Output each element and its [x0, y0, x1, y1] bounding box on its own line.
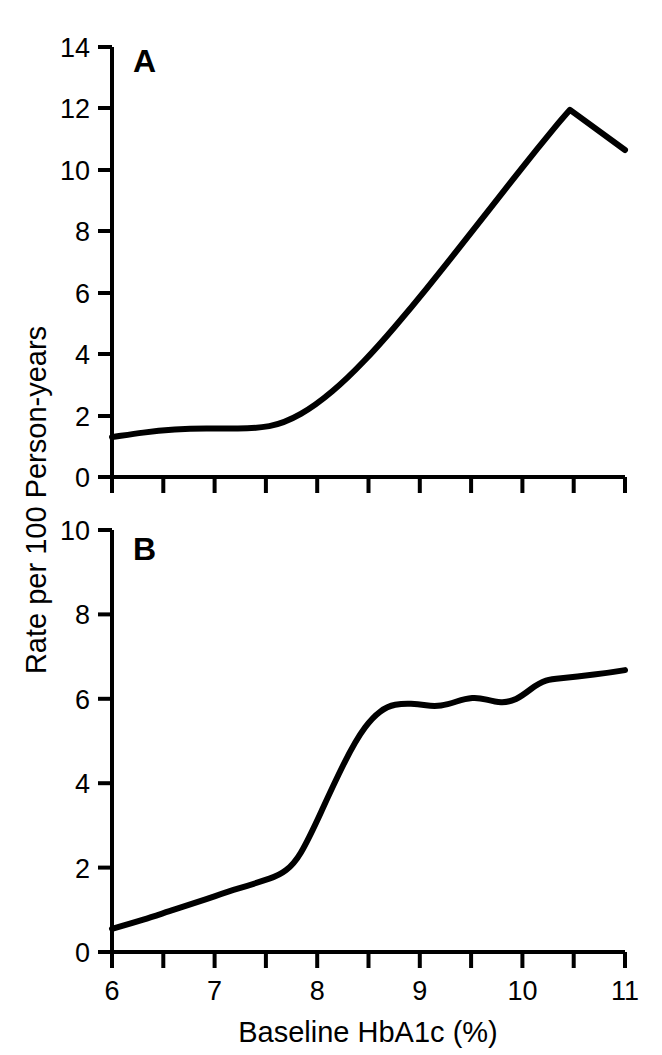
panel-a-ytick-2: 2: [75, 402, 90, 432]
panel-b-ytick-6: 6: [75, 685, 90, 715]
panel-a-ytick-14: 14: [60, 33, 90, 63]
y-axis-title-text: Rate per 100 Person-years: [20, 326, 52, 674]
figure-container: Rate per 100 Person-years A: [0, 0, 662, 1055]
panel-a-ytick-10: 10: [60, 156, 90, 186]
panel-a-ytick-6: 6: [75, 279, 90, 309]
figure-background: [0, 0, 662, 1055]
panel-b-ytick-2: 2: [75, 854, 90, 884]
xtick-7: 7: [207, 976, 222, 1006]
panel-a-ytick-4: 4: [75, 340, 90, 370]
panel-b-ytick-10: 10: [60, 516, 90, 546]
panel-b-letter: B: [133, 531, 156, 567]
xtick-8: 8: [310, 976, 325, 1006]
xtick-11: 11: [611, 976, 639, 1006]
x-axis-title: Baseline HbA1c (%): [238, 1016, 498, 1048]
xtick-10: 10: [507, 976, 537, 1006]
panel-a-ytick-12: 12: [60, 94, 90, 124]
y-axis-title: Rate per 100 Person-years: [20, 326, 52, 674]
panel-a-ytick-8: 8: [75, 217, 90, 247]
xtick-9: 9: [412, 976, 427, 1006]
panel-b-ytick-4: 4: [75, 769, 90, 799]
panel-b-ytick-0: 0: [75, 938, 90, 968]
panel-a-ytick-0: 0: [75, 463, 90, 493]
xtick-6: 6: [104, 976, 119, 1006]
panel-a-letter: A: [133, 43, 156, 79]
panel-b-ytick-8: 8: [75, 600, 90, 630]
chart-svg: Rate per 100 Person-years A: [0, 0, 662, 1055]
